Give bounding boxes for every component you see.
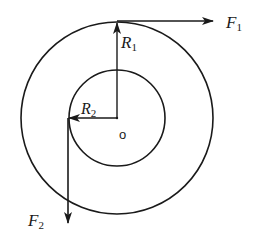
label-r1: R1 [120, 33, 137, 53]
label-origin: o [119, 127, 126, 142]
label-f1: F1 [225, 13, 242, 33]
center-point [116, 117, 118, 119]
label-r2: R2 [80, 100, 96, 119]
label-f2: F2 [27, 211, 44, 231]
force-diagram: F1 R1 R2 o F2 [0, 0, 260, 238]
